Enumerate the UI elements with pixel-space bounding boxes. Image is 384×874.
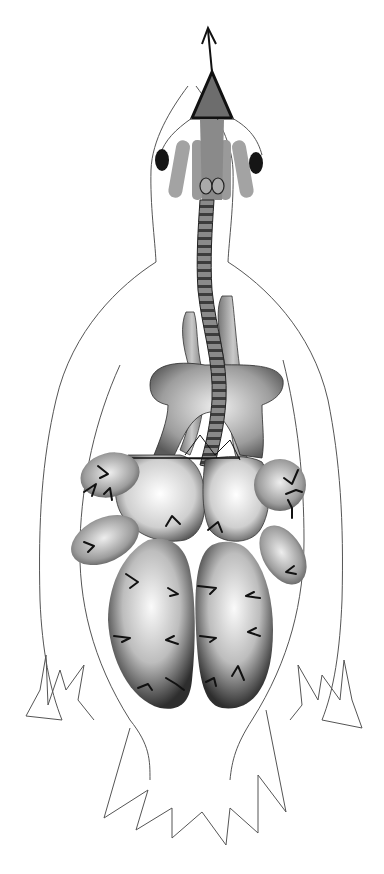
wing-left: [26, 655, 94, 720]
abdominal-air-sac-left: [108, 539, 195, 709]
tail: [104, 710, 286, 845]
eye-right: [249, 152, 263, 174]
head-organs: [167, 120, 255, 200]
beak-arrow: [202, 28, 216, 72]
eye-left: [155, 149, 169, 171]
beak: [192, 72, 232, 118]
wing-right: [290, 660, 362, 728]
cranial-thoracic-air-sac-right: [254, 459, 306, 511]
bird-air-sac-diagram: [0, 0, 384, 874]
abdominal-air-sac-right: [195, 542, 273, 709]
